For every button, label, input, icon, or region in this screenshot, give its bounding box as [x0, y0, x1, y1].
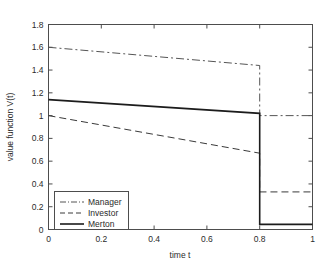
- chart-legend[interactable]: ManagerInvestorMerton: [55, 192, 129, 230]
- y-tick-label: 0: [39, 225, 44, 235]
- figure-canvas: 00.20.40.60.81 00.20.40.60.811.21.41.61.…: [0, 0, 336, 271]
- legend-label-manager: Manager: [88, 197, 122, 207]
- y-axis-title: value function V(t): [5, 93, 15, 162]
- y-tick-label: 1.6: [32, 42, 44, 52]
- x-tick-label: 0.4: [148, 234, 160, 244]
- legend-label-merton: Merton: [88, 219, 115, 229]
- x-tick-labels: 00.20.40.60.81: [46, 234, 315, 244]
- y-tick-label: 0.2: [32, 202, 44, 212]
- y-tick-label: 1.2: [32, 88, 44, 98]
- y-tick-label: 0.4: [32, 179, 44, 189]
- y-tick-labels: 00.20.40.60.811.21.41.61.8: [32, 20, 44, 235]
- value-function-chart: 00.20.40.60.81 00.20.40.60.811.21.41.61.…: [0, 0, 336, 271]
- x-axis-title: time t: [170, 250, 191, 260]
- y-tick-label: 1.4: [32, 65, 44, 75]
- y-tick-label: 0.8: [32, 133, 44, 143]
- x-tick-label: 1: [310, 234, 315, 244]
- x-tick-label: 0.8: [254, 234, 266, 244]
- x-tick-label: 0.2: [95, 234, 107, 244]
- y-tick-label: 1.8: [32, 20, 44, 30]
- x-tick-label: 0: [46, 234, 51, 244]
- x-tick-label: 0.6: [201, 234, 213, 244]
- y-tick-label: 0.6: [32, 156, 44, 166]
- y-tick-label: 1: [39, 111, 44, 121]
- legend-label-investor: Investor: [88, 208, 118, 218]
